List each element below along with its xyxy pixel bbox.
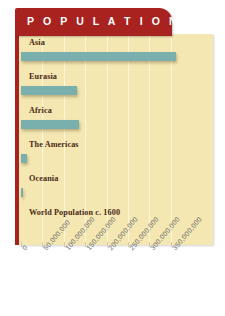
gridline xyxy=(171,34,172,245)
bar xyxy=(21,120,79,129)
bar xyxy=(21,154,27,163)
plot-inner: AsiaEurasiaAfricaThe AmericasOceaniaWorl… xyxy=(19,34,213,245)
category-label: Africa xyxy=(29,106,52,115)
gridline xyxy=(128,34,129,245)
bar xyxy=(21,86,77,95)
category-label: Eurasia xyxy=(29,72,57,81)
chart-title-banner: P O P U L A T I O N xyxy=(15,8,172,36)
category-label: Oceania xyxy=(29,174,58,183)
gridline xyxy=(149,34,150,245)
bar xyxy=(21,52,176,61)
population-bar-chart: P O P U L A T I O N AsiaEurasiaAfricaThe… xyxy=(0,0,225,316)
category-label: Asia xyxy=(29,38,45,47)
category-label: The Americas xyxy=(29,140,79,149)
category-label: World Population c. 1600 xyxy=(29,208,120,217)
bar xyxy=(21,188,23,197)
plot-area: AsiaEurasiaAfricaThe AmericasOceaniaWorl… xyxy=(19,34,213,245)
x-axis-tick-labels: 050,000,000100,000,000150,000,000200,000… xyxy=(0,247,225,316)
x-axis-tick-label: 0 xyxy=(21,244,29,252)
page-title: P O P U L A T I O N xyxy=(27,15,180,27)
